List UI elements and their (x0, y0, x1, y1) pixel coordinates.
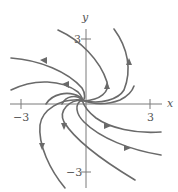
y-tick-label-neg3: −3 (66, 166, 82, 179)
x-tick-label-3: 3 (147, 111, 154, 124)
x-tick-label-neg3: −3 (13, 111, 29, 124)
trajectory-5 (46, 93, 83, 104)
y-axis-label: y (81, 11, 89, 24)
trajectory-4 (11, 82, 82, 101)
x-axis-label: x (167, 97, 174, 110)
axis-labels: y x 3 −3 −3 3 (13, 11, 174, 179)
arrow-icon (104, 82, 110, 89)
trajectory-2 (86, 29, 128, 102)
arrow-icon (39, 143, 45, 150)
phase-portrait-diagram: y x 3 −3 −3 3 (0, 0, 178, 192)
arrow-icon (62, 81, 69, 88)
